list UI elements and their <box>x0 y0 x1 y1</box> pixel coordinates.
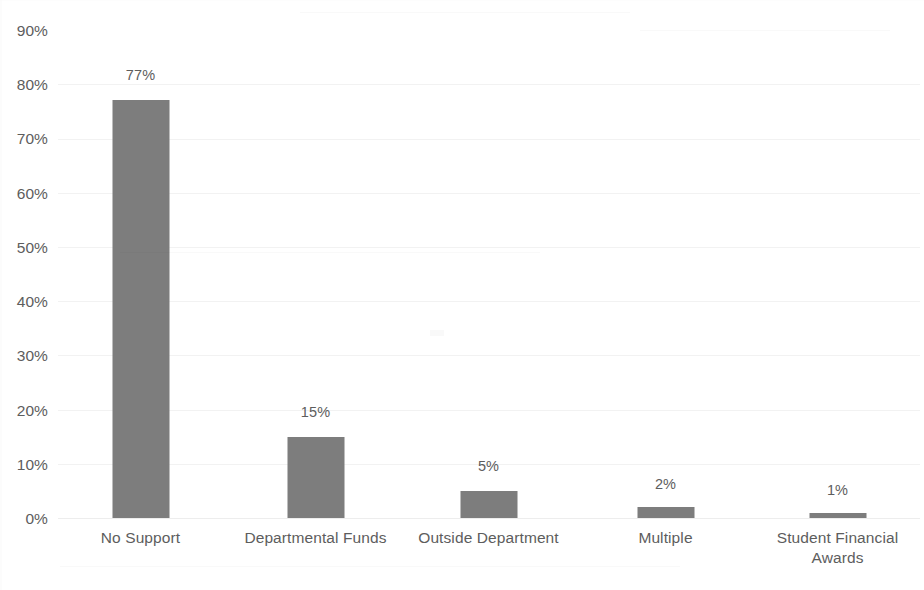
bar-group-no-support: 77% No Support <box>58 0 223 590</box>
y-tick-label-30: 30% <box>0 348 48 364</box>
bar-outside-department[interactable] <box>460 491 517 518</box>
bar-value-outside-department: 5% <box>478 459 499 474</box>
bar-group-departmental-funds: 15% Departmental Funds <box>233 0 398 590</box>
bars-layer: 77% No Support 15% Departmental Funds 5%… <box>58 0 920 590</box>
bar-value-no-support: 77% <box>126 68 155 83</box>
bar-value-departmental-funds: 15% <box>301 405 330 420</box>
y-axis: 90% 80% 70% 60% 50% 40% 30% 20% 10% 0% <box>0 0 58 590</box>
category-label-student-financial-awards: Student Financial Awards <box>763 528 913 568</box>
category-label-outside-department: Outside Department <box>381 528 596 548</box>
y-tick-label-80: 80% <box>0 77 48 93</box>
y-tick-label-90: 90% <box>0 23 48 39</box>
y-tick-label-50: 50% <box>0 240 48 256</box>
y-tick-label-0: 0% <box>0 511 48 527</box>
bar-multiple[interactable] <box>637 507 694 518</box>
bar-student-financial-awards[interactable] <box>809 513 866 518</box>
y-tick-label-70: 70% <box>0 131 48 147</box>
bar-departmental-funds[interactable] <box>287 437 344 518</box>
bar-chart: 90% 80% 70% 60% 50% 40% 30% 20% 10% 0% 7… <box>0 0 924 590</box>
category-label-no-support: No Support <box>66 528 216 548</box>
bar-value-student-financial-awards: 1% <box>827 483 848 498</box>
y-tick-label-20: 20% <box>0 403 48 419</box>
bar-value-multiple: 2% <box>655 477 676 492</box>
bar-group-multiple: 2% Multiple <box>583 0 748 590</box>
y-tick-label-60: 60% <box>0 186 48 202</box>
bar-no-support[interactable] <box>112 100 169 518</box>
bar-group-student-financial-awards: 1% Student Financial Awards <box>755 0 920 590</box>
category-label-multiple: Multiple <box>591 528 741 548</box>
bar-group-outside-department: 5% Outside Department <box>406 0 571 590</box>
y-tick-label-40: 40% <box>0 294 48 310</box>
y-tick-label-10: 10% <box>0 457 48 473</box>
